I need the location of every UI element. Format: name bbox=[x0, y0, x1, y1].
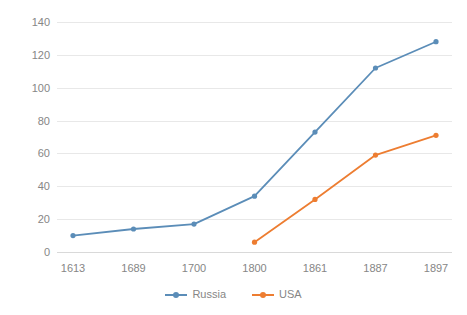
y-tick-label: 80 bbox=[16, 116, 50, 127]
data-point[interactable] bbox=[433, 39, 438, 44]
legend-item-usa[interactable]: USA bbox=[252, 289, 302, 300]
x-tick-label: 1897 bbox=[424, 262, 448, 274]
y-tick-label: 0 bbox=[16, 247, 50, 258]
y-axis: 020406080100120140 bbox=[14, 22, 50, 252]
legend-label: Russia bbox=[192, 289, 226, 300]
y-tick-label: 120 bbox=[16, 50, 50, 61]
x-tick-label: 1613 bbox=[61, 262, 85, 274]
data-point[interactable] bbox=[252, 194, 257, 199]
y-tick-label: 140 bbox=[16, 17, 50, 28]
series-line-russia bbox=[73, 42, 436, 236]
data-point[interactable] bbox=[373, 152, 378, 157]
x-tick-label: 1861 bbox=[303, 262, 327, 274]
data-point[interactable] bbox=[191, 221, 196, 226]
y-tick-label: 40 bbox=[16, 181, 50, 192]
data-point[interactable] bbox=[312, 129, 317, 134]
y-tick-label: 20 bbox=[16, 214, 50, 225]
x-tick-label: 1800 bbox=[242, 262, 266, 274]
x-tick-label: 1700 bbox=[182, 262, 206, 274]
x-tick-label: 1887 bbox=[363, 262, 387, 274]
x-tick-label: 1689 bbox=[121, 262, 145, 274]
series-line-usa bbox=[255, 135, 437, 242]
legend-marker-dot bbox=[260, 292, 266, 298]
legend-swatch-icon bbox=[165, 290, 187, 300]
line-chart: 020406080100120140 161316891700180018611… bbox=[0, 0, 467, 315]
plot-area bbox=[57, 22, 452, 252]
x-axis: 1613168917001800186118871897 bbox=[57, 262, 452, 278]
x-axis-line bbox=[57, 252, 452, 253]
legend-marker-dot bbox=[173, 292, 179, 298]
legend-item-russia[interactable]: Russia bbox=[165, 289, 226, 300]
chart-legend: RussiaUSA bbox=[0, 289, 467, 300]
data-point[interactable] bbox=[70, 233, 75, 238]
data-point[interactable] bbox=[373, 65, 378, 70]
data-point[interactable] bbox=[252, 240, 257, 245]
data-point[interactable] bbox=[312, 197, 317, 202]
data-point[interactable] bbox=[131, 226, 136, 231]
data-point[interactable] bbox=[433, 133, 438, 138]
y-tick-label: 100 bbox=[16, 83, 50, 94]
legend-swatch-icon bbox=[252, 290, 274, 300]
y-tick-label: 60 bbox=[16, 148, 50, 159]
legend-label: USA bbox=[279, 289, 302, 300]
series-layer bbox=[57, 22, 452, 252]
